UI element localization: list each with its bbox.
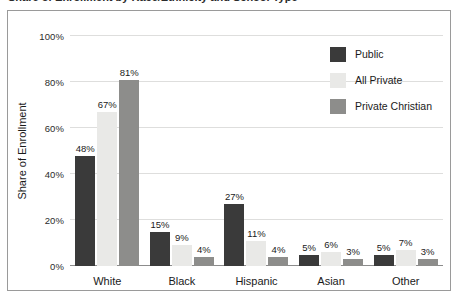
x-category-label: Hispanic bbox=[219, 275, 294, 287]
bar-value-label: 5% bbox=[377, 242, 391, 253]
x-category-label: White bbox=[70, 275, 145, 287]
bar-value-label: 27% bbox=[225, 191, 244, 202]
legend-swatch-private-christian bbox=[330, 99, 346, 114]
y-tick-label: 20% bbox=[45, 215, 64, 226]
bar-value-label: 4% bbox=[272, 244, 286, 255]
bar[interactable] bbox=[396, 250, 416, 266]
bar-value-label: 4% bbox=[197, 244, 211, 255]
bar-column: 15% bbox=[150, 36, 170, 266]
bar[interactable] bbox=[418, 259, 438, 266]
bar[interactable] bbox=[224, 204, 244, 266]
y-axis-label: Share of Enrollment bbox=[16, 102, 28, 199]
y-tick-label: 0% bbox=[50, 261, 64, 272]
bar-column: 4% bbox=[268, 36, 288, 266]
bar[interactable] bbox=[172, 245, 192, 266]
bar-column: 11% bbox=[246, 36, 266, 266]
bar-value-label: 9% bbox=[175, 232, 189, 243]
cropped-title: Share of Enrollment by Race/Ethnicity an… bbox=[0, 0, 459, 9]
bar-value-label: 11% bbox=[247, 228, 265, 239]
y-tick-label: 100% bbox=[39, 31, 64, 42]
bar[interactable] bbox=[299, 255, 319, 267]
bar-group-bars: 27%11%4% bbox=[219, 36, 294, 266]
x-category-label: Other bbox=[368, 275, 443, 287]
bar-column: 5% bbox=[299, 36, 319, 266]
legend-swatch-public bbox=[330, 47, 346, 62]
y-tick-label: 80% bbox=[45, 77, 64, 88]
bar-column: 81% bbox=[119, 36, 139, 266]
chart-frame: Share of Enrollment 0%20%40%60%80%100%48… bbox=[7, 10, 451, 291]
bar[interactable] bbox=[246, 241, 266, 266]
legend-item-all-private[interactable]: All Private bbox=[330, 67, 455, 93]
bar-value-label: 15% bbox=[150, 219, 169, 230]
bar-column: 4% bbox=[194, 36, 214, 266]
x-category-label: Black bbox=[145, 275, 220, 287]
bar-value-label: 81% bbox=[120, 67, 139, 78]
bar-column: 27% bbox=[224, 36, 244, 266]
bar[interactable] bbox=[150, 232, 170, 267]
bar-value-label: 48% bbox=[76, 143, 95, 154]
bar[interactable] bbox=[75, 156, 95, 266]
y-tick-label: 40% bbox=[45, 169, 64, 180]
bar-group: 15%9%4%Black bbox=[145, 36, 220, 266]
legend-label-public: Public bbox=[355, 48, 384, 60]
bar-value-label: 6% bbox=[324, 239, 338, 250]
bar[interactable] bbox=[119, 80, 139, 266]
bar-column: 48% bbox=[75, 36, 95, 266]
bar-column: 67% bbox=[97, 36, 117, 266]
legend-label-private-christian: Private Christian bbox=[355, 100, 432, 112]
chart-figure: Share of Enrollment by Race/Ethnicity an… bbox=[0, 0, 459, 299]
bar-group: 48%67%81%White bbox=[70, 36, 145, 266]
bar[interactable] bbox=[194, 257, 214, 266]
bar-group-bars: 48%67%81% bbox=[70, 36, 145, 266]
bar-value-label: 3% bbox=[346, 246, 360, 257]
legend-swatch-all-private bbox=[330, 73, 346, 88]
bar[interactable] bbox=[374, 255, 394, 267]
bar[interactable] bbox=[268, 257, 288, 266]
bar-value-label: 3% bbox=[421, 246, 435, 257]
bar-column: 9% bbox=[172, 36, 192, 266]
legend-item-private-christian[interactable]: Private Christian bbox=[330, 93, 455, 119]
y-tick-label: 60% bbox=[45, 123, 64, 134]
legend-item-public[interactable]: Public bbox=[330, 41, 455, 67]
bar[interactable] bbox=[321, 252, 341, 266]
bar-value-label: 5% bbox=[302, 242, 316, 253]
bar[interactable] bbox=[97, 112, 117, 266]
bar[interactable] bbox=[343, 259, 363, 266]
x-category-label: Asian bbox=[294, 275, 369, 287]
bar-value-label: 7% bbox=[399, 237, 413, 248]
bar-group-bars: 15%9%4% bbox=[145, 36, 220, 266]
bar-group: 27%11%4%Hispanic bbox=[219, 36, 294, 266]
legend-label-all-private: All Private bbox=[355, 74, 402, 86]
bar-value-label: 67% bbox=[98, 99, 117, 110]
chart-legend: Public All Private Private Christian bbox=[330, 41, 455, 119]
cropped-title-text: Share of Enrollment by Race/Ethnicity an… bbox=[8, 0, 298, 3]
